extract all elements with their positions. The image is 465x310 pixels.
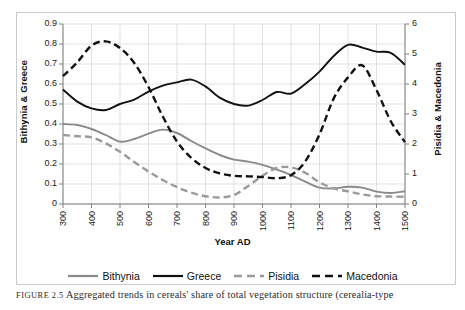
y-axis-right-tick-label: 6 [412,18,438,28]
figure-number: FIGURE 2.5 [16,291,64,300]
x-axis-tick-label: 300 [58,211,68,226]
legend-swatch-pisidia [234,271,264,281]
y-axis-right-tick-label: 0 [412,198,438,208]
y-axis-left-tick-label: 0.6 [31,78,57,88]
x-axis-tick-label: 700 [172,211,182,226]
y-axis-left-tick-label: 0.2 [31,158,57,168]
legend-label: Bithynia [102,270,139,282]
y-axis-left-tick-label: 0 [31,198,57,208]
y-axis-left-tick-label: 0.3 [31,138,57,148]
legend-item-bithynia[interactable]: Bithynia [68,270,139,282]
legend-swatch-macedonia [312,271,342,281]
y-axis-left-tick-label: 0.9 [31,18,57,28]
x-axis-title: Year AD [0,236,465,247]
legend-swatch-greece [153,271,183,281]
figure-container: 00.10.20.30.40.50.60.70.80.9012345630040… [0,0,465,310]
y-axis-left-tick-label: 0.5 [31,98,57,108]
x-axis-tick-label: 1300 [343,211,353,231]
chart-legend: BithyniaGreecePisidiaMacedonia [28,268,438,284]
x-axis-tick-label: 400 [87,211,97,226]
legend-label: Greece [187,270,221,282]
y-axis-right-tick-label: 5 [412,48,438,58]
y-axis-right-tick-label: 1 [412,168,438,178]
y-axis-left-tick-label: 0.4 [31,118,57,128]
x-axis-tick-label: 1400 [372,211,382,231]
x-axis-tick-label: 1000 [258,211,268,231]
line-chart [0,0,465,310]
legend-label: Pisidia [268,270,299,282]
y-axis-right-title: Pisidia & Macedonia [432,62,446,156]
legend-item-macedonia[interactable]: Macedonia [312,270,397,282]
legend-item-greece[interactable]: Greece [153,270,221,282]
y-axis-left-tick-label: 0.1 [31,178,57,188]
x-axis-tick-label: 600 [144,211,154,226]
figure-caption-text: Aggregated trends in cereals' share of t… [66,289,394,300]
figure-caption: FIGURE 2.5 Aggregated trends in cereals'… [16,289,462,300]
x-axis-tick-label: 1100 [286,211,296,230]
x-axis-tick-label: 500 [115,211,125,226]
legend-swatch-bithynia [68,271,98,281]
y-axis-left-tick-label: 0.7 [31,58,57,68]
x-axis-tick-label: 800 [201,211,211,226]
x-axis-tick-label: 900 [229,211,239,226]
legend-label: Macedonia [346,270,397,282]
y-axis-left-tick-label: 0.8 [31,38,57,48]
x-axis-tick-label: 1500 [400,211,410,231]
x-axis-tick-label: 1200 [315,211,325,231]
y-axis-left-title: Bithynia & Greece [18,60,32,144]
legend-item-pisidia[interactable]: Pisidia [234,270,299,282]
